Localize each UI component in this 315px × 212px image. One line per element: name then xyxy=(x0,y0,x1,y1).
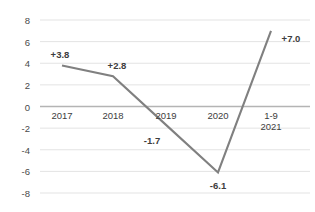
chart-plot-area xyxy=(0,0,315,212)
x-axis-tick-label: 2017 xyxy=(34,110,90,121)
data-point-label: +3.8 xyxy=(39,49,81,60)
x-axis-tick-label-line: 1-9 xyxy=(264,110,278,121)
x-axis-tick-label-line: 2021 xyxy=(243,121,299,132)
data-series-line xyxy=(62,31,271,173)
y-axis-tick-label: 0 xyxy=(8,101,30,112)
x-axis-tick-label-line: 2019 xyxy=(155,110,176,121)
x-axis-tick-label: 2020 xyxy=(190,110,246,121)
data-point-label: -6.1 xyxy=(197,180,239,191)
y-axis-tick-label: 4 xyxy=(8,58,30,69)
y-axis-tick-label: 2 xyxy=(8,79,30,90)
y-axis-tick-label: -2 xyxy=(8,123,30,134)
data-point-label: +2.8 xyxy=(96,60,138,71)
x-axis-tick-label-line: 2020 xyxy=(207,110,228,121)
data-point-label: +7.0 xyxy=(270,33,312,44)
line-chart: 86420-2-4-6-8 20172018201920201-92021 +3… xyxy=(0,0,315,212)
y-axis-tick-label: -4 xyxy=(8,144,30,155)
x-axis-tick-label-line: 2018 xyxy=(102,110,123,121)
x-axis-tick-label: 2018 xyxy=(85,110,141,121)
x-axis-tick-label: 1-92021 xyxy=(243,110,299,132)
y-axis-tick-label: -6 xyxy=(8,166,30,177)
data-point-label: -1.7 xyxy=(131,135,173,146)
y-axis-tick-label: 8 xyxy=(8,15,30,26)
y-axis-tick-label: 6 xyxy=(8,36,30,47)
x-axis-tick-label: 2019 xyxy=(138,110,194,121)
x-axis-tick-label-line: 2017 xyxy=(51,110,72,121)
y-axis-tick-label: -8 xyxy=(8,188,30,199)
